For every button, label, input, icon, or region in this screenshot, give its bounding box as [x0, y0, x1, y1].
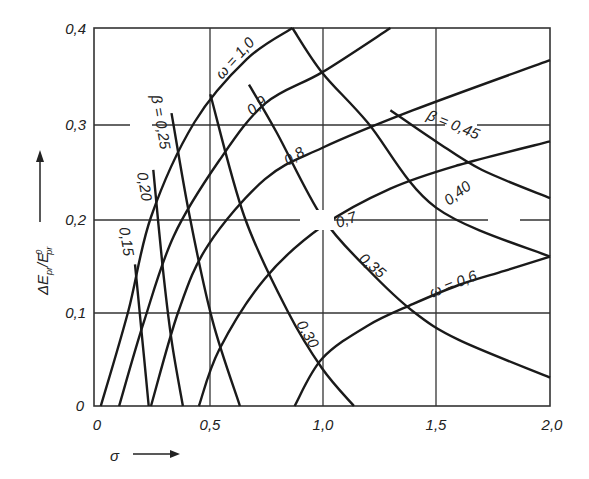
y-tick-0-4: 0,4: [65, 20, 86, 37]
label-beta-0-45: β = 0,45: [424, 106, 483, 143]
curve-beta-6: [153, 170, 183, 406]
x-tick-0-5: 0,5: [200, 416, 222, 433]
label-omega-0-7: 0,7: [333, 207, 359, 230]
label-beta-0-15: 0,15: [116, 226, 138, 258]
curve-beta-9: [249, 85, 550, 378]
x-tick-1-5: 1,5: [426, 416, 448, 433]
x-tick-2-0: 2,0: [541, 416, 564, 433]
nomogram-chart: 0 0,1 0,2 0,3 0,4 0 0,5 1,0 1,5 2,0 σ ΔE…: [0, 0, 589, 479]
y-tick-0: 0: [76, 397, 85, 414]
y-axis-title: ΔEpr/E0pr: [34, 246, 54, 296]
sigma-label: σ: [110, 447, 120, 464]
y-tick-0-1: 0,1: [65, 304, 86, 321]
label-beta-0-30: 0,30: [293, 317, 323, 351]
y-axis-ticks: 0 0,1 0,2 0,3 0,4: [65, 20, 87, 414]
y-tick-0-2: 0,2: [65, 211, 87, 228]
curve-omega-0: [101, 28, 293, 406]
y-tick-0-3: 0,3: [65, 116, 87, 133]
curve-labels: ω = 1,0 0,9 0,8 0,7 ω = 0,6 β = 0,25 0,2…: [116, 33, 483, 351]
label-beta-0-40: 0,40: [440, 177, 474, 209]
y-axis-label: ΔEpr/E0pr: [34, 150, 54, 296]
x-tick-0: 0: [93, 416, 102, 433]
label-omega-1-0: ω = 1,0: [212, 33, 258, 82]
x-axis-ticks: 0 0,5 1,0 1,5 2,0: [93, 416, 563, 433]
curve-beta-7: [172, 113, 240, 406]
label-beta-0-35: 0,35: [356, 249, 390, 281]
y-axis-arrow-icon: [36, 150, 44, 162]
x-tick-1-0: 1,0: [313, 416, 335, 433]
label-omega-0-6: ω = 0,6: [427, 266, 480, 301]
curve-beta-5: [135, 264, 149, 406]
x-axis-label: σ: [110, 447, 180, 464]
x-axis-arrow-icon: [170, 450, 180, 458]
